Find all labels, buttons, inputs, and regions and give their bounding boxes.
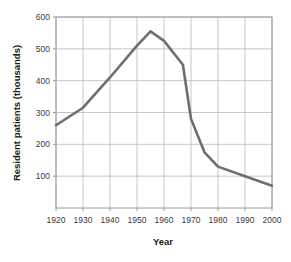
y-tick-label: 300	[36, 108, 50, 118]
line-chart-figure: 100200300400500600 192019301940195019601…	[0, 0, 291, 262]
x-tick-label: 1980	[209, 215, 228, 225]
x-tick-label: 1970	[182, 215, 201, 225]
y-tick-label: 200	[36, 139, 50, 149]
x-tick-label: 1920	[47, 215, 66, 225]
y-tick-label: 100	[36, 171, 50, 181]
x-tick-label: 1990	[236, 215, 255, 225]
x-tick-label: 2000	[263, 215, 282, 225]
chart-canvas: 100200300400500600 192019301940195019601…	[0, 0, 291, 262]
y-tick-label: 400	[36, 76, 50, 86]
x-tick-label: 1960	[155, 215, 174, 225]
y-axis-title: Resident patients (thousands)	[11, 45, 22, 181]
x-tick-label: 1930	[74, 215, 93, 225]
y-tick-label: 600	[36, 12, 50, 22]
x-tick-label: 1950	[128, 215, 147, 225]
x-tick-label: 1940	[101, 215, 120, 225]
x-axis-title: Year	[153, 236, 173, 247]
y-tick-label: 500	[36, 44, 50, 54]
